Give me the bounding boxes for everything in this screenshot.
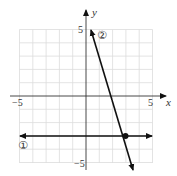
x-tick-min: −5 [12, 97, 23, 108]
line-1-label: ① [18, 139, 28, 152]
y-tick-min: −5 [74, 158, 85, 169]
intersection-point [123, 133, 129, 139]
x-tick-max: 5 [148, 97, 153, 108]
line-2-label: ② [97, 29, 107, 42]
x-axis-label: x [165, 96, 171, 108]
y-tick-max: 5 [78, 24, 83, 35]
coordinate-plane: x y −5 5 5 −5 ① ② [0, 0, 177, 176]
axes [10, 10, 166, 170]
y-axis-label: y [91, 6, 97, 18]
